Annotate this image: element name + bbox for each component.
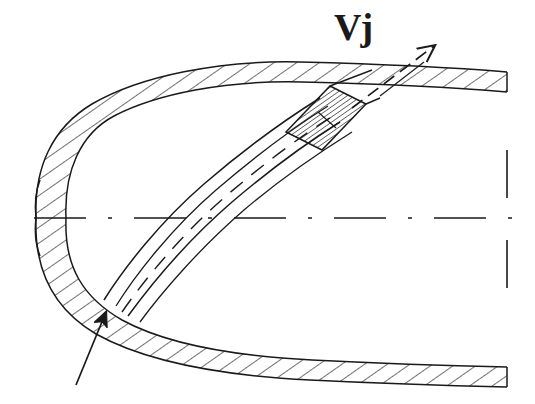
jet-exit-lip-lower <box>366 98 380 104</box>
upper-wall-hatching <box>0 40 535 240</box>
duct-left-wall-outer <box>104 98 320 300</box>
jet-exit-hatching <box>270 76 380 166</box>
upper-wall <box>0 40 535 240</box>
nozzle-jet-diagram: Vj <box>0 0 535 404</box>
diagram-canvas <box>0 0 535 404</box>
lower-wall <box>0 190 535 404</box>
lower-wall-hatching <box>0 190 535 404</box>
duct-right-wall-outer <box>140 132 352 322</box>
jet-velocity-label: Vj <box>334 8 372 46</box>
